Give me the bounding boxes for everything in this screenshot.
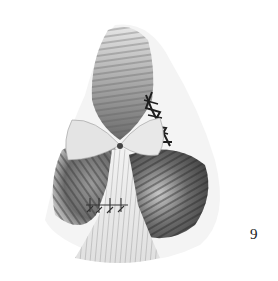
- center-knot: [117, 143, 123, 149]
- figure-number: 9: [250, 226, 258, 243]
- anatomical-illustration: [0, 0, 278, 281]
